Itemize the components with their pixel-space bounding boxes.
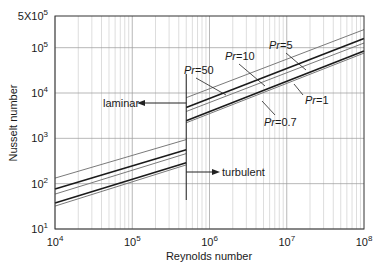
y-tick-label: 102 — [31, 176, 48, 190]
x-tick-label: 105 — [124, 234, 141, 248]
y-tick-label: 5X105 — [18, 8, 49, 22]
x-axis-label: Reynolds number — [166, 250, 253, 262]
y-tick-label: 101 — [31, 221, 48, 235]
x-tick-label: 108 — [356, 234, 373, 248]
turbulent-arrow-head-icon — [212, 169, 220, 175]
series-label: Pr=0.7 — [264, 116, 297, 128]
laminar-label: laminar — [103, 97, 139, 109]
x-tick-label: 104 — [47, 234, 64, 248]
x-tick-label: 107 — [278, 234, 295, 248]
x-axis-ticks: 104105106107108 — [47, 234, 373, 248]
series-label: Pr=1 — [305, 94, 329, 106]
grid — [55, 16, 364, 229]
y-tick-label: 103 — [31, 130, 48, 144]
turbulent-label: turbulent — [222, 166, 265, 178]
chart-canvas: 104105106107108 1011021031041055X105 Pr=… — [0, 0, 382, 273]
label-leader-line — [262, 101, 275, 115]
nusselt-vs-reynolds-chart: 104105106107108 1011021031041055X105 Pr=… — [0, 0, 382, 273]
y-axis-ticks: 1011021031041055X105 — [18, 8, 49, 235]
y-tick-label: 104 — [31, 85, 48, 99]
y-axis-label: Nusselt number — [7, 84, 19, 161]
series-label: Pr=10 — [225, 50, 255, 62]
series-label: Pr=50 — [184, 64, 214, 76]
y-tick-label: 105 — [31, 40, 48, 54]
x-tick-label: 106 — [201, 234, 218, 248]
series-label: Pr=5 — [269, 39, 293, 51]
